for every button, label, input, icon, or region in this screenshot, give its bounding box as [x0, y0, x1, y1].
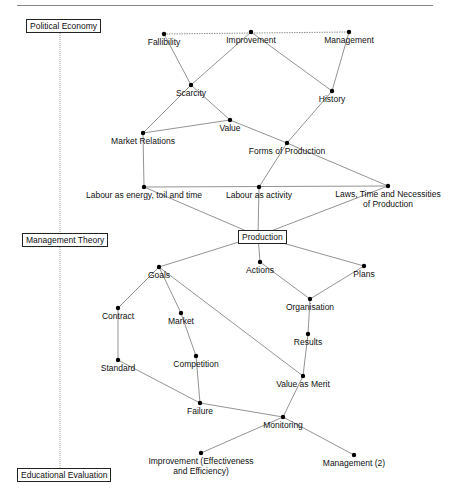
node-label-history: History [319, 94, 345, 104]
category-management-theory: Management Theory [22, 233, 108, 247]
node-dot-standard [116, 358, 120, 362]
node-label-market_relations: Market Relations [111, 136, 175, 146]
node-dot-market [179, 311, 183, 315]
node-label-management_2: Management (2) [323, 458, 385, 468]
node-dot-labour_energy [142, 185, 146, 189]
node-label-failure: Failure [187, 406, 213, 416]
edge-fallibility-management [164, 32, 349, 34]
node-label-results: Results [294, 337, 322, 347]
node-dot-value_as_merit [301, 374, 305, 378]
edge-value-market_relations [143, 120, 230, 133]
node-dot-market_relations [141, 131, 145, 135]
node-dot-contract [116, 306, 120, 310]
node-dot-improvement_eff [199, 451, 203, 455]
node-label-organisation: Organisation [286, 302, 334, 312]
edge-labour_energy-laws_time [144, 186, 388, 187]
node-label-competition: Competition [173, 359, 218, 369]
node-dot-management [347, 30, 351, 34]
node-dot-monitoring [281, 415, 285, 419]
production-node: Production [238, 230, 287, 244]
node-dot-value [228, 118, 232, 122]
node-label-goals: Goals [148, 270, 170, 280]
category-educational-evaluation: Educational Evaluation [17, 468, 111, 482]
node-dot-improvement [249, 30, 253, 34]
category-political-economy: Political Economy [26, 19, 101, 33]
node-label-scarcity: Scarcity [176, 88, 206, 98]
node-dot-organisation [308, 297, 312, 301]
node-dot-plans [362, 264, 366, 268]
node-label-improvement_eff: Improvement (Effectiveness and Efficienc… [141, 456, 261, 476]
node-label-management: Management [324, 35, 374, 45]
node-label-improvement: Improvement [226, 35, 276, 45]
node-label-forms_of_production: Forms of Production [249, 146, 326, 156]
node-label-fallibility: Fallibility [148, 37, 181, 47]
node-label-actions: Actions [246, 265, 274, 275]
diagram-canvas [0, 0, 461, 497]
node-dot-scarcity [189, 83, 193, 87]
node-label-labour_activity: Labour as activity [226, 190, 292, 200]
node-dot-goals [157, 265, 161, 269]
node-label-standard: Standard [101, 363, 136, 373]
node-dot-laws_time [386, 184, 390, 188]
node-label-labour_energy: Labour as energy, toil and time [86, 190, 202, 200]
node-label-monitoring: Monitoring [263, 420, 303, 430]
node-label-plans: Plans [353, 269, 374, 279]
node-dot-competition [194, 354, 198, 358]
node-dot-results [306, 332, 310, 336]
node-label-value: Value [219, 123, 240, 133]
node-dot-failure [198, 401, 202, 405]
node-label-value_as_merit: Value as Merit [276, 379, 330, 389]
node-label-contract: Contract [102, 311, 134, 321]
node-label-market: Market [168, 316, 194, 326]
node-dot-forms_of_production [285, 141, 289, 145]
node-dot-history [330, 89, 334, 93]
node-dot-actions [258, 260, 262, 264]
node-dot-fallibility [162, 32, 166, 36]
node-dot-management_2 [352, 453, 356, 457]
node-dot-labour_activity [257, 185, 261, 189]
node-label-laws_time: Laws, Time and Necessities of Production [333, 189, 443, 209]
